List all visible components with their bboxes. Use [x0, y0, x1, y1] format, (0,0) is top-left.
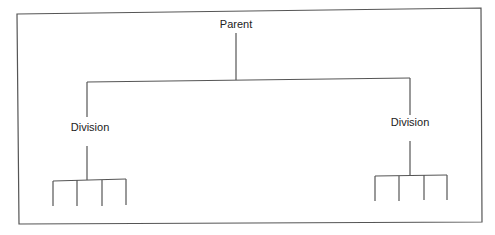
division-connector: [87, 78, 410, 82]
right-division-label: Division: [391, 116, 430, 128]
right-subunit-bar: [375, 175, 447, 176]
left-division-label: Division: [71, 121, 110, 133]
parent-label: Parent: [220, 18, 252, 30]
left-subunit-bar: [53, 179, 126, 181]
